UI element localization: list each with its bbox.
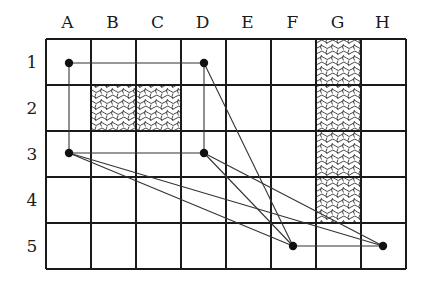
- node-D1: [200, 59, 208, 67]
- column-label-B: B: [106, 12, 119, 32]
- hatched-cell-G1: [316, 39, 361, 85]
- column-label-H: H: [375, 12, 390, 32]
- column-label-F: F: [287, 12, 299, 32]
- grid-path-diagram: ABCDEFGH 12345: [0, 0, 425, 283]
- column-labels: ABCDEFGH: [60, 12, 390, 32]
- node-H5: [379, 242, 387, 250]
- hatched-cell-C2: [136, 85, 181, 131]
- edge-D3-F5: [204, 153, 293, 246]
- hatched-cell-B2: [91, 85, 136, 131]
- row-label-5: 5: [27, 236, 38, 256]
- edge-D1-F5: [204, 63, 293, 246]
- column-label-E: E: [241, 12, 253, 32]
- hatched-cell-G4: [316, 177, 361, 223]
- column-label-C: C: [151, 12, 164, 32]
- node-A3: [65, 149, 73, 157]
- node-D3: [200, 149, 208, 157]
- row-label-3: 3: [27, 144, 38, 164]
- node-F5: [289, 242, 297, 250]
- row-label-2: 2: [27, 98, 38, 118]
- hatched-cell-G2: [316, 85, 361, 131]
- column-label-D: D: [196, 12, 210, 32]
- row-label-1: 1: [27, 52, 38, 72]
- row-label-4: 4: [27, 190, 38, 210]
- row-labels: 12345: [27, 52, 38, 256]
- column-label-A: A: [60, 12, 74, 32]
- node-A1: [65, 59, 73, 67]
- column-label-G: G: [331, 12, 345, 32]
- hatched-cell-G3: [316, 131, 361, 177]
